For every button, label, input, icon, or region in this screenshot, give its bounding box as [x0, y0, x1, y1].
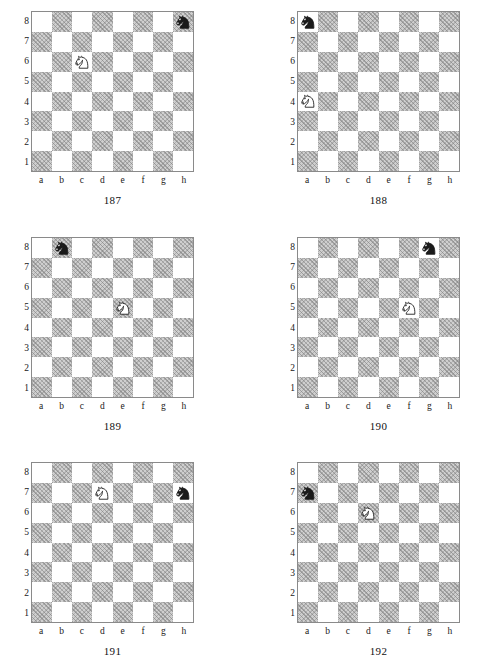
square-c1[interactable]: [72, 377, 92, 397]
square-g5[interactable]: [419, 523, 439, 543]
square-f4[interactable]: [133, 543, 153, 563]
square-c5[interactable]: [72, 523, 92, 543]
square-h1[interactable]: [439, 151, 459, 171]
square-a8[interactable]: [32, 238, 52, 258]
square-g1[interactable]: [419, 151, 439, 171]
square-f7[interactable]: [399, 258, 419, 278]
square-e3[interactable]: [113, 337, 133, 357]
square-g8[interactable]: [153, 12, 173, 32]
square-a2[interactable]: [32, 357, 52, 377]
square-e5[interactable]: [379, 298, 399, 318]
square-c2[interactable]: [72, 357, 92, 377]
square-f7[interactable]: [399, 32, 419, 52]
square-a6[interactable]: [32, 503, 52, 523]
square-h7[interactable]: [439, 258, 459, 278]
square-d2[interactable]: [92, 357, 112, 377]
square-b4[interactable]: [52, 92, 72, 112]
square-g8[interactable]: [153, 463, 173, 483]
square-a6[interactable]: [32, 52, 52, 72]
square-b7[interactable]: [52, 258, 72, 278]
square-a3[interactable]: [32, 337, 52, 357]
black-knight-icon[interactable]: [300, 484, 317, 501]
square-f4[interactable]: [399, 92, 419, 112]
square-a8[interactable]: [32, 12, 52, 32]
square-b6[interactable]: [318, 278, 338, 298]
square-c4[interactable]: [338, 543, 358, 563]
square-f1[interactable]: [399, 377, 419, 397]
square-d6[interactable]: [358, 503, 378, 523]
square-f2[interactable]: [399, 357, 419, 377]
square-b3[interactable]: [318, 562, 338, 582]
square-e5[interactable]: [113, 298, 133, 318]
square-f8[interactable]: [399, 238, 419, 258]
square-g5[interactable]: [153, 72, 173, 92]
square-a3[interactable]: [298, 337, 318, 357]
square-h5[interactable]: [439, 72, 459, 92]
square-f1[interactable]: [399, 151, 419, 171]
square-e4[interactable]: [113, 92, 133, 112]
square-e7[interactable]: [379, 483, 399, 503]
square-e4[interactable]: [113, 318, 133, 338]
square-d2[interactable]: [92, 131, 112, 151]
square-d6[interactable]: [92, 52, 112, 72]
black-knight-icon[interactable]: [420, 239, 437, 256]
square-c3[interactable]: [72, 111, 92, 131]
square-h3[interactable]: [439, 337, 459, 357]
square-a2[interactable]: [32, 582, 52, 602]
square-h3[interactable]: [173, 562, 193, 582]
chessboard[interactable]: [297, 462, 460, 623]
square-d5[interactable]: [92, 523, 112, 543]
square-a5[interactable]: [298, 72, 318, 92]
square-e8[interactable]: [379, 238, 399, 258]
square-d5[interactable]: [358, 72, 378, 92]
square-f5[interactable]: [399, 523, 419, 543]
square-d2[interactable]: [92, 582, 112, 602]
square-d7[interactable]: [358, 483, 378, 503]
square-b3[interactable]: [318, 337, 338, 357]
square-f8[interactable]: [399, 463, 419, 483]
square-h5[interactable]: [173, 72, 193, 92]
square-d5[interactable]: [92, 72, 112, 92]
square-g8[interactable]: [419, 12, 439, 32]
square-h5[interactable]: [439, 523, 459, 543]
square-h1[interactable]: [173, 151, 193, 171]
square-d8[interactable]: [358, 12, 378, 32]
square-c4[interactable]: [72, 543, 92, 563]
square-e4[interactable]: [113, 543, 133, 563]
square-a8[interactable]: [298, 238, 318, 258]
square-b3[interactable]: [52, 562, 72, 582]
square-c8[interactable]: [338, 238, 358, 258]
square-c5[interactable]: [338, 72, 358, 92]
square-e3[interactable]: [113, 562, 133, 582]
square-b3[interactable]: [52, 337, 72, 357]
square-f5[interactable]: [133, 523, 153, 543]
square-d7[interactable]: [92, 258, 112, 278]
square-h1[interactable]: [439, 377, 459, 397]
square-d3[interactable]: [92, 337, 112, 357]
square-f8[interactable]: [399, 12, 419, 32]
square-g3[interactable]: [419, 111, 439, 131]
square-e2[interactable]: [113, 131, 133, 151]
square-e7[interactable]: [379, 258, 399, 278]
square-h4[interactable]: [173, 543, 193, 563]
square-b4[interactable]: [318, 543, 338, 563]
square-f7[interactable]: [133, 483, 153, 503]
square-e8[interactable]: [113, 238, 133, 258]
square-h4[interactable]: [439, 92, 459, 112]
square-b1[interactable]: [52, 602, 72, 622]
square-h8[interactable]: [173, 238, 193, 258]
square-g1[interactable]: [153, 602, 173, 622]
square-c7[interactable]: [72, 483, 92, 503]
square-b8[interactable]: [318, 463, 338, 483]
square-e8[interactable]: [113, 12, 133, 32]
square-b8[interactable]: [52, 12, 72, 32]
square-b2[interactable]: [318, 131, 338, 151]
black-knight-icon[interactable]: [174, 13, 191, 30]
square-a4[interactable]: [32, 543, 52, 563]
square-h7[interactable]: [439, 32, 459, 52]
square-b6[interactable]: [52, 503, 72, 523]
square-b3[interactable]: [318, 111, 338, 131]
square-f3[interactable]: [133, 562, 153, 582]
square-f3[interactable]: [399, 562, 419, 582]
square-f4[interactable]: [399, 543, 419, 563]
